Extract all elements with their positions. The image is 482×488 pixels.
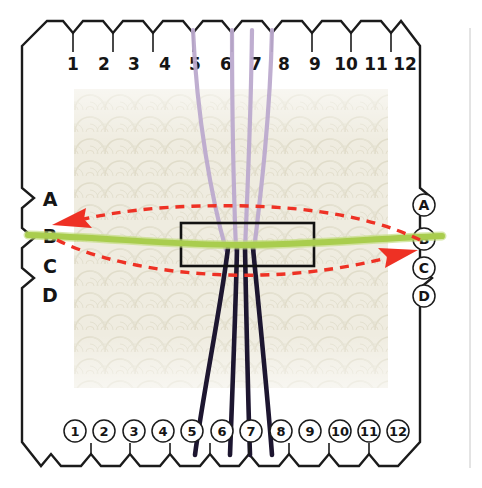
top-number-1: 1 xyxy=(67,54,79,74)
top-number-3: 3 xyxy=(128,54,140,74)
left-letter-column: A B C D xyxy=(42,188,58,306)
right-letter-a: A xyxy=(419,197,430,213)
bottom-number-8: 8 xyxy=(276,424,285,439)
loom-diagram: 1 2 3 4 5 6 7 8 9 10 11 12 A B C D A B xyxy=(0,0,482,488)
bottom-number-1: 1 xyxy=(70,424,79,439)
top-number-4: 4 xyxy=(159,54,171,74)
bottom-number-4: 4 xyxy=(158,424,167,439)
top-number-row: 1 2 3 4 5 6 7 8 9 10 11 12 xyxy=(67,54,417,74)
left-letter-d: D xyxy=(42,284,58,306)
top-number-11: 11 xyxy=(364,54,388,74)
bottom-number-9: 9 xyxy=(305,424,314,439)
bottom-number-11: 11 xyxy=(360,424,378,439)
top-number-12: 12 xyxy=(393,54,417,74)
bottom-number-7: 7 xyxy=(246,424,255,439)
bottom-number-row: 1 2 3 4 5 6 7 8 9 10 11 12 xyxy=(64,420,409,442)
top-number-2: 2 xyxy=(98,54,110,74)
top-number-8: 8 xyxy=(278,54,290,74)
top-number-10: 10 xyxy=(334,54,358,74)
top-number-9: 9 xyxy=(309,54,321,74)
bottom-number-12: 12 xyxy=(389,424,407,439)
right-letter-c: C xyxy=(419,260,429,276)
bottom-number-6: 6 xyxy=(217,424,226,439)
left-letter-c: C xyxy=(43,255,57,277)
bottom-number-2: 2 xyxy=(99,424,108,439)
diagram-canvas: 1 2 3 4 5 6 7 8 9 10 11 12 A B C D A B xyxy=(0,0,482,488)
bottom-number-10: 10 xyxy=(331,424,349,439)
left-letter-a: A xyxy=(43,188,58,210)
bottom-number-3: 3 xyxy=(129,424,138,439)
right-letter-d: D xyxy=(418,288,430,304)
bottom-number-5: 5 xyxy=(187,424,196,439)
